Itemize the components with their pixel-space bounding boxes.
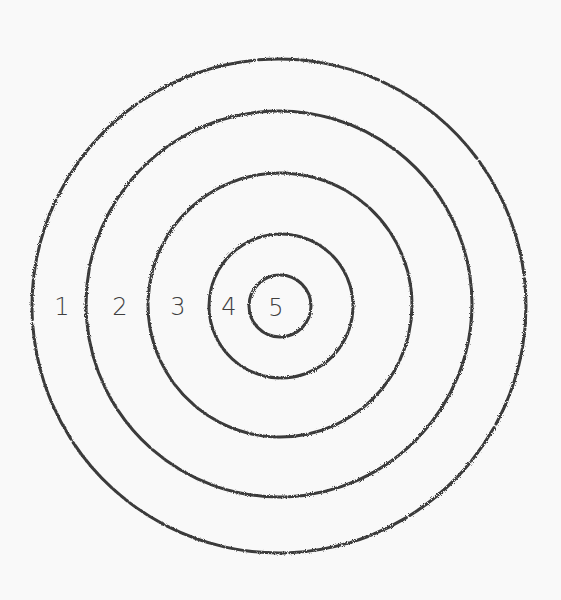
ring-label-3: 3 — [170, 293, 185, 321]
ring-label-4: 4 — [221, 293, 236, 321]
ring-label-1: 1 — [54, 293, 69, 321]
concentric-target: 1 2 3 4 5 — [0, 0, 561, 600]
ring-label-5: 5 — [268, 294, 283, 322]
ring-label-2: 2 — [112, 293, 127, 321]
